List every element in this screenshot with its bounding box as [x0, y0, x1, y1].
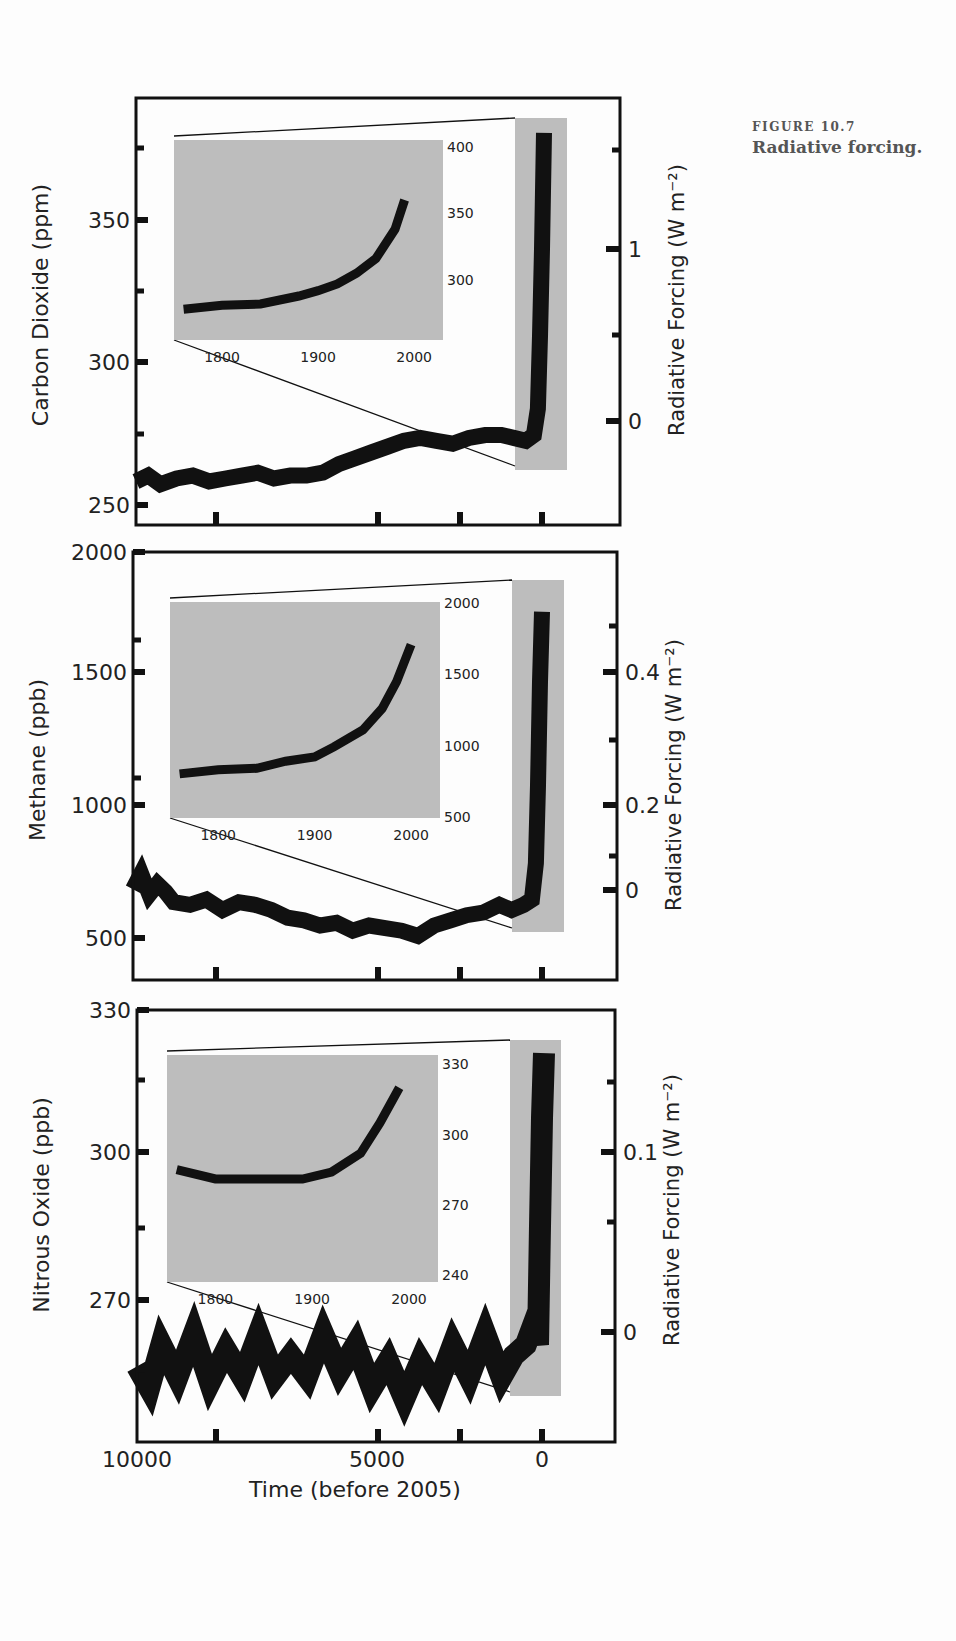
- radiative-forcing-figure: 18001900200030035040025030035001Carbon D…: [0, 0, 956, 1641]
- ytick-label: 300: [88, 350, 130, 375]
- inset-ytick-label: 270: [442, 1197, 469, 1213]
- inset-ytick-label: 350: [447, 205, 474, 221]
- inset-xtick-label: 1800: [198, 1291, 234, 1307]
- xlabel: Time (before 2005): [248, 1477, 461, 1502]
- ylabel: Carbon Dioxide (ppm): [28, 184, 53, 426]
- inset-ytick-label: 1500: [444, 666, 480, 682]
- inset-ytick-label: 500: [444, 809, 471, 825]
- ytick-label: 250: [88, 493, 130, 518]
- inset-xtick-label: 2000: [393, 827, 429, 843]
- inset-ytick-label: 240: [442, 1267, 469, 1283]
- inset-xtick-label: 1800: [204, 349, 240, 365]
- xtick-label: 10000: [102, 1447, 172, 1472]
- panel-nitrous-oxide: 18001900200024027030033027030033000.1Nit…: [29, 998, 684, 1442]
- ytick-label: 350: [88, 208, 130, 233]
- panel-methane: 1800190020005001000150020005001000150020…: [25, 540, 686, 980]
- ytick-label: 330: [89, 998, 131, 1023]
- inset-ytick-label: 330: [442, 1056, 469, 1072]
- right-ytick-label: 0: [623, 1320, 637, 1345]
- inset-xtick-label: 1800: [200, 827, 236, 843]
- ytick-label: 300: [89, 1140, 131, 1165]
- right-ytick-label: 0.2: [625, 793, 660, 818]
- ytick-label: 500: [85, 926, 127, 951]
- right-ytick-label: 0: [628, 409, 642, 434]
- ylabel-right: Radiative Forcing (W m⁻²): [660, 1074, 684, 1346]
- ylabel: Nitrous Oxide (ppb): [29, 1097, 54, 1313]
- inset-ytick-label: 400: [447, 139, 474, 155]
- right-ytick-label: 1: [628, 237, 642, 262]
- inset-ytick-label: 2000: [444, 595, 480, 611]
- xtick-label: 0: [535, 1447, 549, 1472]
- xtick-label: 5000: [349, 1447, 405, 1472]
- inset-ytick-label: 300: [442, 1127, 469, 1143]
- inset-xtick-label: 1900: [294, 1291, 330, 1307]
- inset-xtick-label: 1900: [297, 827, 333, 843]
- right-ytick-label: 0.1: [623, 1140, 658, 1165]
- ylabel-right: Radiative Forcing (W m⁻²): [665, 164, 689, 436]
- ylabel: Methane (ppb): [25, 679, 50, 841]
- ytick-label: 1500: [71, 660, 127, 685]
- inset-xtick-label: 2000: [391, 1291, 427, 1307]
- right-ytick-label: 0.4: [625, 660, 660, 685]
- right-ytick-label: 0: [625, 878, 639, 903]
- ylabel-right: Radiative Forcing (W m⁻²): [662, 639, 686, 911]
- inset-xtick-label: 2000: [396, 349, 432, 365]
- ytick-label: 1000: [71, 793, 127, 818]
- ytick-label: 2000: [71, 540, 127, 565]
- inset-xtick-label: 1900: [300, 349, 336, 365]
- panel-carbon-dioxide: 18001900200030035040025030035001Carbon D…: [28, 98, 689, 525]
- inset-ytick-label: 1000: [444, 738, 480, 754]
- inset-plot: [170, 602, 440, 818]
- ytick-label: 270: [89, 1288, 131, 1313]
- inset-ytick-label: 300: [447, 272, 474, 288]
